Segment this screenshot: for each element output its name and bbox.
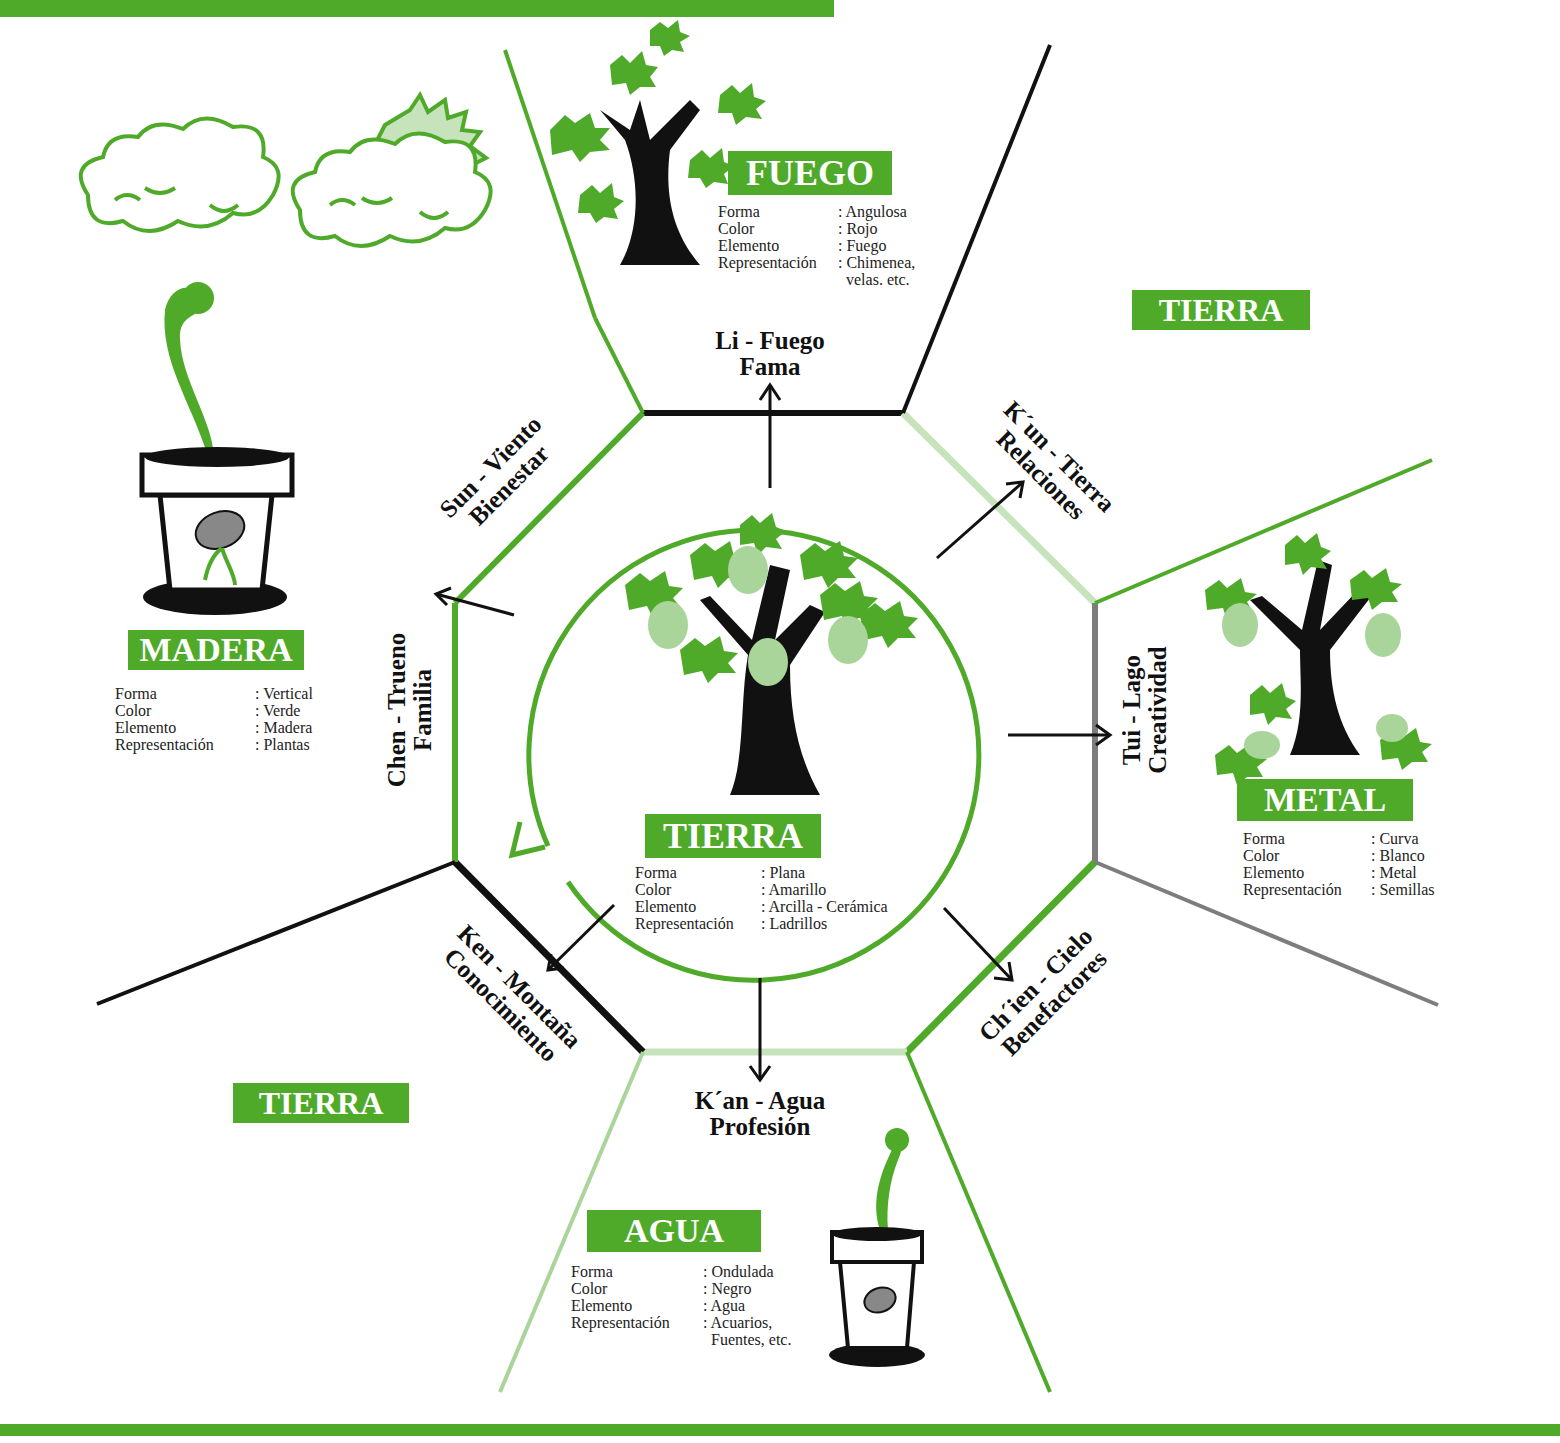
prop-row: Forma: Curva (1243, 830, 1435, 847)
element-title-tierra-top-right: TIERRA (1132, 290, 1310, 330)
element-title-madera: MADERA (128, 630, 304, 670)
prop-row: Color: Negro (571, 1280, 791, 1297)
trigram-kan: K´an - Agua Profesión (660, 1088, 860, 1140)
element-props-metal: Forma: Curva Color: Blanco Elemento: Met… (1243, 830, 1435, 898)
prop-row: Forma: Plana (635, 864, 888, 881)
element-title-tierra-center: TIERRA (645, 814, 821, 858)
prop-row: Representación: Plantas (115, 736, 313, 753)
prop-row: Forma: Vertical (115, 685, 313, 702)
prop-row: Representación: Chimenea, (718, 254, 915, 271)
prop-row: Elemento: Metal (1243, 864, 1435, 881)
prop-row: Color: Verde (115, 702, 313, 719)
prop-row: Representación: Acuarios, (571, 1314, 791, 1331)
prop-row: Color: Blanco (1243, 847, 1435, 864)
prop-row: Elemento: Agua (571, 1297, 791, 1314)
prop-row: Fuentes, etc. (571, 1331, 791, 1348)
prop-row: Elemento: Arcilla - Cerámica (635, 898, 888, 915)
prop-row: Forma: Angulosa (718, 203, 915, 220)
element-props-fuego: Forma: Angulosa Color: Rojo Elemento: Fu… (718, 203, 915, 288)
element-title-agua: AGUA (587, 1210, 761, 1252)
element-props-tierra-center: Forma: Plana Color: Amarillo Elemento: A… (635, 864, 888, 932)
element-title-metal: METAL (1237, 779, 1413, 821)
element-props-agua: Forma: Ondulada Color: Negro Elemento: A… (571, 1263, 791, 1348)
small-sprouting-pot-icon (829, 1128, 925, 1367)
prop-row: Representación: Ladrillos (635, 915, 888, 932)
prop-row: Color: Rojo (718, 220, 915, 237)
tree-metal-icon (1205, 533, 1432, 785)
trigram-tui: Tui - Lago Creatividad (1119, 625, 1171, 795)
prop-row: velas. etc. (718, 271, 915, 288)
sprouting-pot-icon (142, 282, 292, 615)
prop-row: Elemento: Madera (115, 719, 313, 736)
cloud-icon (81, 118, 279, 231)
prop-row: Forma: Ondulada (571, 1263, 791, 1280)
trigram-li: Li - Fuego Fama (690, 328, 850, 380)
element-props-madera: Forma: Vertical Color: Verde Elemento: M… (115, 685, 313, 753)
prop-row: Elemento: Fuego (718, 237, 915, 254)
element-title-fuego: FUEGO (728, 151, 892, 195)
tree-earth-icon (625, 513, 918, 795)
prop-row: Representación: Semillas (1243, 881, 1435, 898)
prop-row: Color: Amarillo (635, 881, 888, 898)
cloud-with-sun-icon (293, 95, 491, 246)
trigram-chen: Chen - Trueno Familia (384, 615, 436, 805)
element-title-tierra-bottom-left: TIERRA (233, 1083, 409, 1123)
